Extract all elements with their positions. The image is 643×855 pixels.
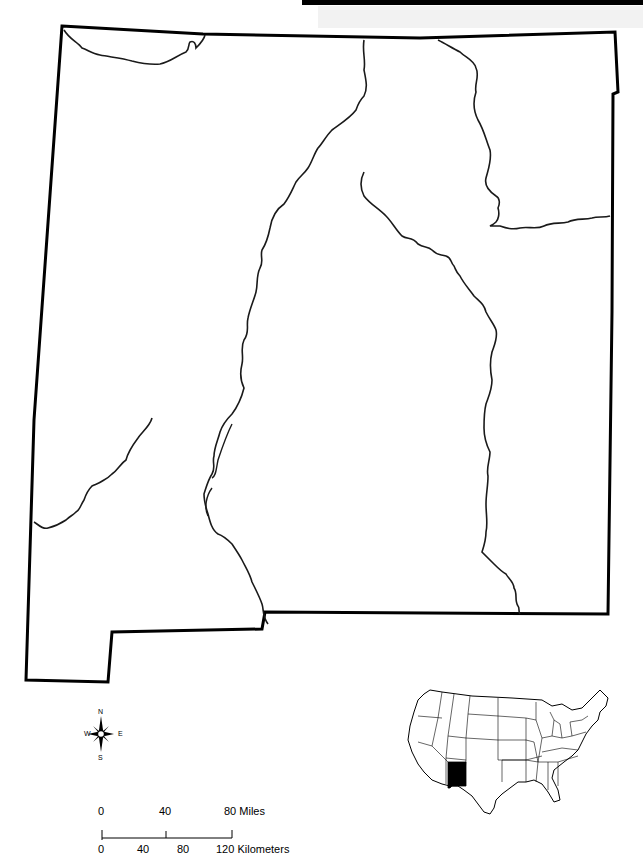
compass-star-icon (84, 708, 128, 764)
scale-km-80: 80 (177, 844, 189, 855)
scale-bar: 0 40 80 Miles 0 40 80 120 Kilometers (92, 800, 302, 855)
scale-km-0: 0 (98, 844, 104, 855)
river-pecos (361, 172, 520, 614)
us-inset-map (402, 686, 614, 818)
new-mexico-highlight (448, 762, 466, 788)
scale-km-120-group: 120 Kilometers (216, 844, 289, 855)
river-gila (34, 418, 152, 528)
scale-km-120: 120 (216, 843, 234, 855)
state-border (26, 26, 618, 682)
river-canadian-north (438, 40, 610, 229)
river-san-juan (64, 30, 205, 64)
compass-rose: N W E S (84, 708, 128, 764)
scale-km-unit: Kilometers (237, 843, 289, 855)
state-map (0, 0, 643, 700)
scale-bar-lines (92, 800, 302, 840)
scale-km-40: 40 (137, 844, 149, 855)
river-rio-grande (204, 40, 366, 624)
